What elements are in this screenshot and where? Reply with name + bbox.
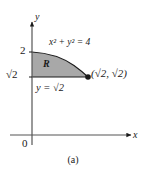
x-axis-label: x: [133, 130, 137, 140]
plot-canvas: [0, 0, 146, 177]
circle-equation-label: x² + y² = 4: [49, 38, 90, 48]
figure-caption: (a): [0, 155, 146, 165]
y-tick-label-sqrt2: √2: [6, 69, 18, 80]
point-marker-sqrt2-sqrt2: [85, 74, 91, 80]
line-equation-label: y = √2: [36, 83, 64, 94]
region-label-R: R: [43, 59, 50, 69]
point-coordinate-label: (√2, √2): [91, 68, 127, 79]
y-axis-label: y: [35, 12, 39, 22]
shaded-region-R: [32, 52, 88, 77]
figure-container: y x 2 √2 0 R x² + y² = 4 y = √2 (√2, √2)…: [0, 0, 146, 177]
origin-label: 0: [22, 138, 28, 149]
y-tick-label-2: 2: [20, 45, 26, 56]
